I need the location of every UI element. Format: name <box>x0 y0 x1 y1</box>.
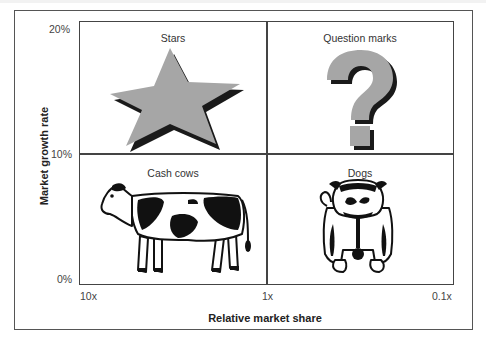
x-tick-10x: 10x <box>80 290 97 302</box>
x-tick-1x: 1x <box>262 290 273 302</box>
quadrant-label-dogs: Dogs <box>267 167 453 179</box>
x-axis-title: Relative market share <box>0 312 486 324</box>
y-tick-20: 20% <box>49 23 70 35</box>
x-tick-0-1x: 0.1x <box>432 290 452 302</box>
y-tick-0: 0% <box>57 273 72 285</box>
horizontal-divider <box>80 153 453 155</box>
bcg-matrix: Stars Question marks Cash cows <box>79 21 454 285</box>
cow-icon <box>98 178 258 278</box>
quadrant-label-question-marks: Question marks <box>267 32 453 44</box>
y-axis-title: Market growth rate <box>38 107 50 205</box>
question-mark-icon <box>323 48 403 148</box>
bulldog-icon <box>313 180 403 276</box>
top-edge <box>0 0 486 3</box>
star-icon <box>108 42 248 152</box>
y-tick-10: 10% <box>51 148 72 160</box>
